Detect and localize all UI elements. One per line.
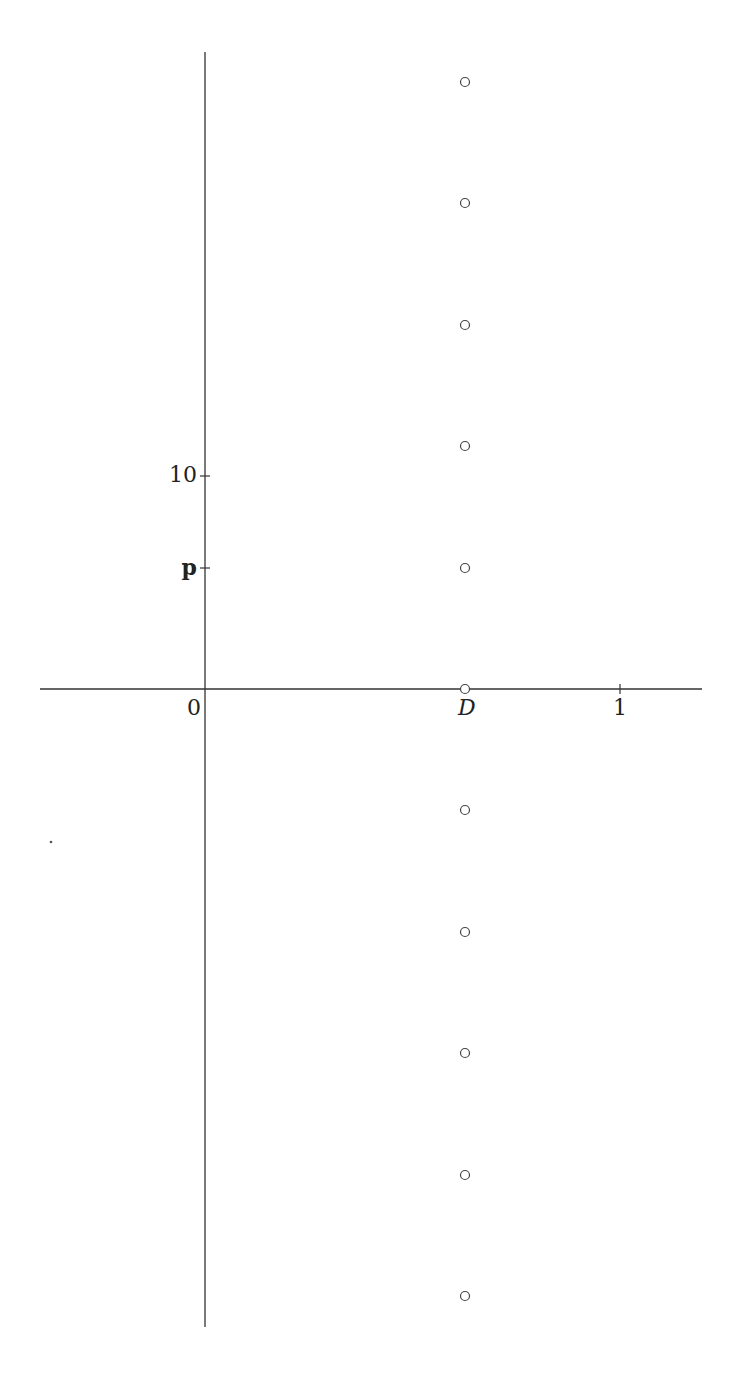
diagram-canvas	[0, 0, 745, 1373]
x-tick-label: 0	[187, 697, 201, 719]
open-circle-marker	[461, 1049, 470, 1058]
open-circle-marker	[461, 685, 470, 694]
open-circle-marker	[461, 564, 470, 573]
x-tick-label: D	[458, 697, 476, 719]
axis-ticks	[200, 476, 620, 694]
open-circle-marker	[461, 78, 470, 87]
open-circle-marker	[461, 928, 470, 937]
open-circle-marker	[461, 806, 470, 815]
open-circle-marker	[461, 1292, 470, 1301]
y-tick-label: p	[182, 556, 197, 578]
open-circle-marker	[461, 199, 470, 208]
x-tick-label: 1	[613, 697, 627, 719]
stray-dot	[50, 841, 53, 844]
point-markers	[461, 78, 470, 1301]
open-circle-marker	[461, 1171, 470, 1180]
y-tick-label: 10	[169, 464, 197, 486]
open-circle-marker	[461, 442, 470, 451]
open-circle-marker	[461, 321, 470, 330]
